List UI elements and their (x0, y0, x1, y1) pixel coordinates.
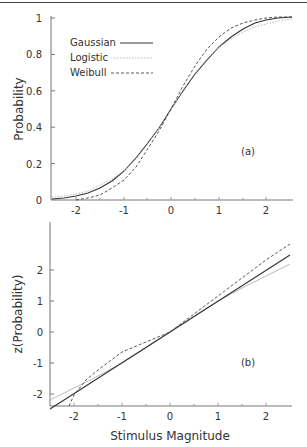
panel-a-ytick: 0.2 (26, 159, 42, 170)
panel-b: 2 1 0 -1 -2 -2 -1 0 1 2 z(Pro (11, 222, 292, 443)
panel-a-label: (a) (241, 146, 255, 157)
panel-a-xtick: 0 (168, 205, 174, 216)
panel-a: 1 0.8 0.6 0.4 0.2 0 -2 -1 0 1 2 (12, 13, 293, 216)
panel-a-xtick: -2 (71, 205, 81, 216)
panel-b-ytick: 2 (37, 265, 43, 276)
panel-b-ytick: 1 (37, 296, 43, 307)
panel-b-xtick: -2 (69, 411, 79, 422)
panel-a-xtick: 2 (263, 205, 269, 216)
top-border-line (0, 2, 307, 3)
panel-b-xtick: 2 (263, 411, 269, 422)
panel-a-ylabel: Probability (12, 77, 26, 140)
panel-b-xlabel: Stimulus Magnitude (110, 429, 230, 443)
chart-canvas: 1 0.8 0.6 0.4 0.2 0 -2 -1 0 1 2 (0, 0, 307, 447)
panel-b-label: (b) (241, 357, 255, 368)
panel-b-weibull-curve (69, 244, 290, 406)
panel-a-ytick: 0.4 (26, 122, 42, 133)
panel-b-ylabel: z(Probability) (11, 274, 25, 353)
panel-b-ytick: -2 (33, 389, 43, 400)
panel-a-xtick: -1 (119, 205, 129, 216)
panel-a-ytick: 1 (36, 13, 42, 24)
panel-b-xtick: 0 (167, 411, 173, 422)
panel-b-xtick: -1 (117, 411, 127, 422)
legend-label-logistic: Logistic (70, 52, 108, 63)
panel-b-ytick: 0 (37, 327, 43, 338)
figure: 1 0.8 0.6 0.4 0.2 0 -2 -1 0 1 2 (0, 0, 307, 447)
legend-label-weibull: Weibull (70, 67, 106, 78)
panel-a-ytick: 0.8 (26, 49, 42, 60)
panel-b-ytick: -1 (33, 358, 43, 369)
panel-a-ytick: 0.6 (26, 86, 42, 97)
panel-a-xtick: 1 (216, 205, 222, 216)
panel-b-xtick: 1 (215, 411, 221, 422)
panel-b-gaussian-curve (50, 255, 290, 409)
panel-a-ytick: 0 (36, 195, 42, 206)
legend-label-gaussian: Gaussian (70, 37, 116, 48)
legend: Gaussian Logistic Weibull (70, 37, 153, 78)
